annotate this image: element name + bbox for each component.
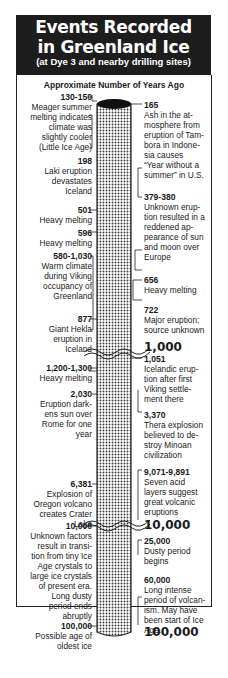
event-text: eruptions [144, 507, 198, 517]
event-text: Greenland [42, 291, 92, 301]
event-years: 3,370 [144, 410, 203, 420]
event-text: slightly cooler [30, 132, 92, 142]
event-years: 6,381 [33, 479, 92, 489]
event-10000-left: 10,000 Unknown factors result in transi-… [30, 521, 92, 621]
event-text: pearance of sun [144, 232, 205, 242]
event-722: 722 Major eruption; source unknown [144, 305, 204, 335]
event-text: source unknown [144, 325, 204, 335]
event-877: 877 Giant Hekla eruption in Iceland [49, 314, 92, 354]
scale-marker-100000: 100,000 [144, 625, 199, 639]
event-years: 379-380 [144, 192, 205, 202]
event-text: Heavy melting [144, 285, 197, 295]
event-text: result in transi- [30, 541, 92, 551]
scale-marker-1000: 1,000 [144, 340, 182, 354]
event-text: begins [144, 556, 191, 566]
event-years: 10,000 [30, 521, 92, 531]
event-text: great volcanic [144, 497, 198, 507]
event-text: stroy Minoan [144, 440, 203, 450]
event-text: Heavy melting [39, 215, 92, 225]
event-text: Possible age of [35, 631, 92, 641]
event-198: 198 Laki eruption devastates Iceland [44, 156, 92, 196]
event-years: 501 [39, 205, 92, 215]
event-years: 130-150 [30, 92, 92, 102]
event-text: Viking settle- [144, 384, 198, 394]
event-text: tion resulted in a [144, 212, 205, 222]
event-text: Long intense [144, 585, 205, 595]
event-years: 722 [144, 305, 204, 315]
event-text: ism. May have [144, 605, 205, 615]
event-text: Icelandic erup- [144, 364, 198, 374]
event-text: sia causes [144, 150, 204, 160]
event-text: been start of Ice [144, 615, 205, 625]
event-text: Heavy melting [39, 373, 92, 383]
event-text: Major eruption; [144, 315, 204, 325]
event-text: (Little Ice Age) [30, 142, 92, 152]
event-text: occupancy of [42, 281, 92, 291]
event-text: Long dusty [30, 591, 92, 601]
event-years: 596 [39, 228, 92, 238]
event-text: period of volcan- [144, 595, 205, 605]
event-text: and moon over [144, 242, 205, 252]
event-text: Age crystals to [30, 561, 92, 571]
event-text: Giant Hekla [49, 324, 92, 334]
event-text: period ends [30, 601, 92, 611]
event-text: year [40, 429, 92, 439]
event-100000-left: 100,000 Possible age of oldest ice [35, 621, 92, 651]
event-text: summer” in U.S. [144, 170, 204, 180]
event-text: eruption of Tam- [144, 130, 204, 140]
event-text: tion from tiny Ice [30, 551, 92, 561]
event-text: of present era. [30, 581, 92, 591]
event-text: Iceland [44, 186, 92, 196]
event-text: during Viking [42, 271, 92, 281]
event-text: Unknown erup- [144, 202, 205, 212]
event-text: creates Crater [33, 509, 92, 519]
event-text: civilization [144, 450, 203, 460]
event-text: layers suggest [144, 487, 198, 497]
event-text: Laki eruption [44, 166, 92, 176]
event-years: 1,051 [144, 354, 198, 364]
event-text: Heavy melting [39, 238, 92, 248]
event-text: Oregon volcano [33, 499, 92, 509]
event-years: 100,000 [35, 621, 92, 631]
event-text: melting indicates [30, 112, 92, 122]
event-years: 165 [144, 100, 204, 110]
event-years: 198 [44, 156, 92, 166]
event-379-380: 379-380 Unknown erup- tion resulted in a… [144, 192, 205, 262]
event-text: oldest ice [35, 641, 92, 651]
event-text: eruption in [49, 334, 92, 344]
event-text: devastates [44, 176, 92, 186]
event-2030: 2,030 Eruption dark- ens sun over Rome f… [40, 389, 92, 439]
event-text: Unknown factors [30, 531, 92, 541]
event-text: believed to de- [144, 430, 203, 440]
event-text: ens sun over [40, 409, 92, 419]
event-text: abruptly [30, 611, 92, 621]
event-3370: 3,370 Thera explosion believed to de- st… [144, 410, 203, 460]
event-text: large ice crystals [30, 571, 92, 581]
event-text: Explosion of [33, 489, 92, 499]
event-text: Iceland [49, 344, 92, 354]
event-years: 1,200-1,300 [39, 363, 92, 373]
event-years: 877 [49, 314, 92, 324]
cylinder-top [97, 99, 131, 109]
event-years: 580-1,030 [42, 251, 92, 261]
event-text: bora in Indone- [144, 140, 204, 150]
event-text: reddened ap- [144, 222, 205, 232]
event-text: “Year without a [144, 160, 204, 170]
event-165: 165 Ash in the at- mosphere from eruptio… [144, 100, 204, 180]
event-text: ment there [144, 394, 198, 404]
event-text: Thera explosion [144, 420, 203, 430]
event-9071-9891: 9,071-9,891 Seven acid layers suggest gr… [144, 467, 198, 517]
event-text: Europe [144, 252, 205, 262]
event-501: 501 Heavy melting [39, 205, 92, 225]
event-656: 656 Heavy melting [144, 275, 197, 295]
event-text: Ash in the at- [144, 110, 204, 120]
event-years: 9,071-9,891 [144, 467, 198, 477]
event-text: tion after first [144, 374, 198, 384]
event-text: mosphere from [144, 120, 204, 130]
event-years: 25,000 [144, 536, 191, 546]
event-years: 2,030 [40, 389, 92, 399]
event-130-150: 130-150 Meager summer melting indicates … [30, 92, 92, 152]
event-years: 60,000 [144, 575, 205, 585]
ice-core-cylinder [97, 99, 131, 636]
event-years: 656 [144, 275, 197, 285]
